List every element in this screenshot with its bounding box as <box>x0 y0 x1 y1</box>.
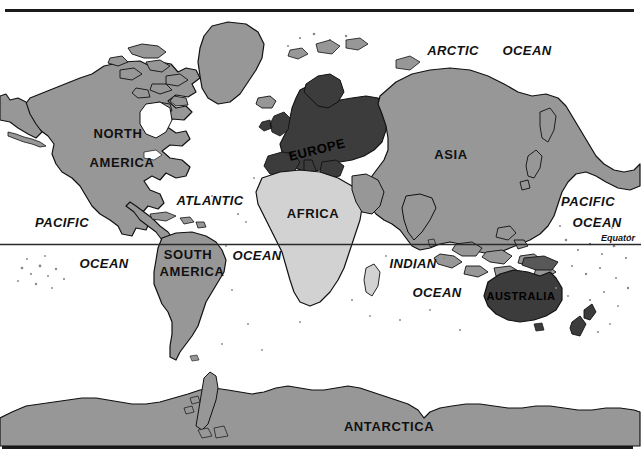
landmass-falkland-islands <box>190 355 199 361</box>
label-pacific-ocean-east-word2: OCEAN <box>573 215 622 230</box>
label-pacific-ocean-east-word1: PACIFIC <box>561 194 615 209</box>
label-north-america-line2: AMERICA <box>90 155 155 170</box>
map-frame-top-border <box>5 9 634 12</box>
label-south-america-line2: AMERICA <box>160 264 225 279</box>
world-map-canvas: ARCTIC OCEAN NORTH AMERICA ATLANTIC OCEA… <box>0 0 641 459</box>
label-atlantic-ocean-word2: OCEAN <box>233 248 282 263</box>
landmass-tasmania <box>534 323 544 331</box>
label-arctic-ocean-word2: OCEAN <box>503 43 552 58</box>
label-asia: ASIA <box>434 147 467 162</box>
label-atlantic-ocean-word1: ATLANTIC <box>175 193 243 208</box>
label-north-america-line1: NORTH <box>93 126 142 141</box>
label-pacific-ocean-west-word2: OCEAN <box>80 256 129 271</box>
label-indian-ocean-word2: OCEAN <box>413 285 462 300</box>
label-equator: Equator <box>601 233 635 243</box>
label-south-america-line1: SOUTH <box>164 247 213 262</box>
label-africa: AFRICA <box>287 206 340 221</box>
world-map-figure: ARCTIC OCEAN NORTH AMERICA ATLANTIC OCEA… <box>0 0 641 459</box>
label-indian-ocean-word1: INDIAN <box>389 256 436 271</box>
label-australia: AUSTRALIA <box>487 290 556 302</box>
label-pacific-ocean-west-word1: PACIFIC <box>35 215 89 230</box>
label-arctic-ocean-word1: ARCTIC <box>426 43 479 58</box>
label-antarctica: ANTARCTICA <box>344 419 434 434</box>
